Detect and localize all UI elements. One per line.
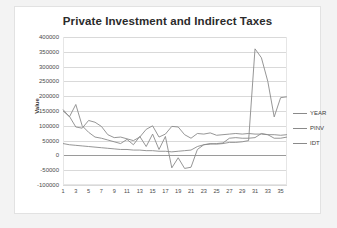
plot-area: 4000003500003000002500002000001500001000… <box>63 37 287 185</box>
y-tick-label: -100000 <box>37 182 59 188</box>
legend-swatch-icon <box>293 143 307 144</box>
y-tick-label: 250000 <box>39 78 59 84</box>
legend-label: IDT <box>310 140 320 146</box>
x-tick-label: 1 <box>61 188 64 194</box>
legend-item-year[interactable]: YEAR <box>293 110 326 116</box>
x-tick-label: 33 <box>265 188 271 194</box>
x-tick-label: 27 <box>226 188 232 194</box>
chart-legend: YEARPINVIDT <box>293 110 326 146</box>
y-tick-label: 200000 <box>39 93 59 99</box>
legend-label: PINV <box>310 125 324 131</box>
series-line-pinv <box>63 111 287 141</box>
x-tick-label: 19 <box>175 188 181 194</box>
legend-swatch-icon <box>293 113 307 114</box>
y-tick-label: 100000 <box>39 123 59 129</box>
y-tick-label: 400000 <box>39 34 59 40</box>
y-tick-label: 150000 <box>39 108 59 114</box>
x-tick-label: 5 <box>87 188 90 194</box>
legend-label: YEAR <box>310 110 326 116</box>
legend-swatch-icon <box>293 128 307 129</box>
x-tick-label: 7 <box>100 188 103 194</box>
y-tick-label: 50000 <box>42 138 59 144</box>
y-tick-label: 300000 <box>39 64 59 70</box>
chart-title: Private Investment and Indirect Taxes <box>15 15 320 27</box>
x-tick-label: 15 <box>149 188 155 194</box>
y-tick-label: 350000 <box>39 49 59 55</box>
x-tick-label: 11 <box>124 188 130 194</box>
x-tick-label: 21 <box>188 188 194 194</box>
x-tick-label: 3 <box>74 188 77 194</box>
series-lines <box>63 37 287 185</box>
x-tick-label: 35 <box>277 188 283 194</box>
x-tick-label: 25 <box>213 188 219 194</box>
series-line-year <box>63 49 287 169</box>
chart-container: Private Investment and Indirect Taxes Va… <box>14 6 321 214</box>
legend-item-pinv[interactable]: PINV <box>293 125 326 131</box>
gridline <box>63 185 287 186</box>
x-tick-label: 17 <box>162 188 168 194</box>
y-tick-label: 0 <box>56 152 59 158</box>
series-line-idt <box>63 133 287 151</box>
y-tick-label: -50000 <box>40 167 59 173</box>
x-tick-label: 29 <box>239 188 245 194</box>
x-tick-label: 13 <box>137 188 143 194</box>
x-tick-label: 31 <box>252 188 258 194</box>
legend-item-idt[interactable]: IDT <box>293 140 326 146</box>
x-tick-label: 9 <box>113 188 116 194</box>
x-tick-label: 23 <box>201 188 207 194</box>
